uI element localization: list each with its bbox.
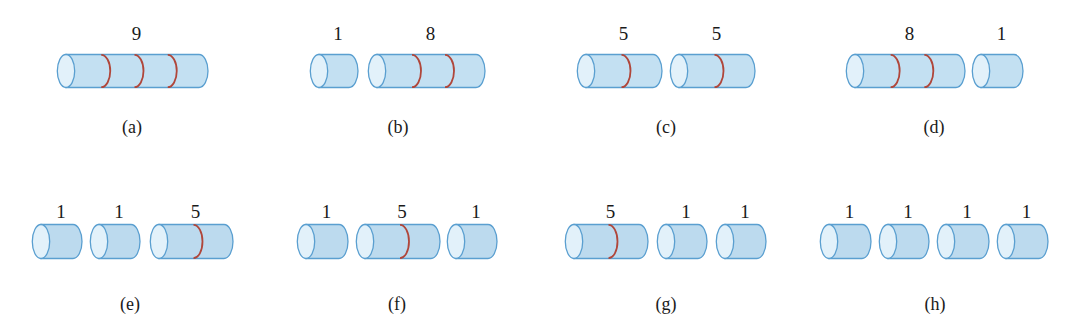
cylinder-length-label: 5 — [397, 202, 407, 221]
cylinder-length-label: 1 — [997, 24, 1007, 43]
cylinder-length-label: 8 — [426, 24, 436, 43]
panel-caption: (e) — [120, 295, 140, 313]
cylinder-length-label: 1 — [962, 202, 972, 221]
cylinder-length-label: 1 — [322, 202, 332, 221]
cylinder-partition-figure: 9(a)18(b)55(c)81(d)115(e)151(f)511(g)111… — [0, 0, 1074, 324]
cylinder-end-cap — [846, 55, 863, 88]
cylinder-length-label: 1 — [333, 24, 343, 43]
cylinder-end-cap — [879, 225, 896, 259]
panel-caption: (h) — [925, 295, 946, 313]
panel-caption: (a) — [122, 118, 142, 136]
cylinder-piece — [716, 224, 766, 259]
cylinder-length-label: 5 — [619, 24, 629, 43]
cylinder-piece — [447, 224, 497, 259]
cylinder-end-cap — [297, 225, 314, 259]
cylinder-end-cap — [57, 55, 74, 88]
cylinder-length-label: 8 — [905, 24, 915, 43]
cylinder-length-label: 1 — [681, 202, 691, 221]
cylinder-length-label: 9 — [132, 24, 142, 43]
cylinder-piece — [565, 224, 648, 259]
cylinder-end-cap — [447, 225, 464, 259]
cylinder-length-label: 1 — [114, 202, 124, 221]
cylinder-piece — [937, 224, 989, 259]
cylinder-length-label: 1 — [56, 202, 66, 221]
panel-caption: (b) — [388, 118, 409, 136]
cylinder-end-cap — [577, 55, 594, 88]
cylinder-piece — [577, 54, 662, 88]
cylinder-length-label: 5 — [606, 202, 616, 221]
cylinder-end-cap — [716, 225, 733, 259]
cylinder-end-cap — [368, 55, 385, 88]
cylinder-length-label: 1 — [740, 202, 750, 221]
panel-caption: (f) — [388, 295, 406, 313]
cylinder-end-cap — [820, 225, 837, 259]
cylinder-piece — [57, 54, 208, 88]
cylinder-piece — [820, 224, 871, 259]
cylinder-piece — [657, 224, 707, 259]
cylinder-end-cap — [997, 225, 1014, 259]
panel-caption: (g) — [656, 295, 677, 313]
cylinder-end-cap — [310, 55, 327, 88]
panel-caption: (c) — [656, 118, 676, 136]
panel-caption: (d) — [924, 118, 945, 136]
cylinder-piece — [972, 54, 1023, 88]
cylinder-end-cap — [937, 225, 954, 259]
cylinder-piece — [310, 54, 358, 88]
cylinder-piece — [846, 54, 965, 88]
cylinder-piece — [90, 224, 140, 259]
cylinder-end-cap — [670, 55, 687, 88]
cylinder-length-label: 1 — [845, 202, 855, 221]
cylinder-end-cap — [972, 55, 989, 88]
cylinder-length-label: 1 — [1022, 202, 1032, 221]
cylinder-length-label: 5 — [712, 24, 722, 43]
cylinder-end-cap — [90, 225, 107, 259]
cylinder-length-label: 1 — [471, 202, 481, 221]
cylinder-piece — [32, 224, 82, 259]
cylinder-piece — [368, 54, 485, 88]
cylinder-piece — [297, 224, 348, 259]
cylinder-end-cap — [32, 225, 49, 259]
cylinder-piece — [997, 224, 1048, 259]
cylinder-end-cap — [356, 225, 373, 259]
cylinder-piece — [150, 224, 233, 259]
cylinder-piece — [670, 54, 755, 88]
cylinder-end-cap — [657, 225, 674, 259]
cylinder-end-cap — [565, 225, 582, 259]
cylinder-length-label: 5 — [191, 202, 201, 221]
cylinder-piece — [879, 224, 929, 259]
cylinder-piece — [356, 224, 440, 259]
cylinder-length-label: 1 — [903, 202, 913, 221]
cylinder-end-cap — [150, 225, 167, 259]
